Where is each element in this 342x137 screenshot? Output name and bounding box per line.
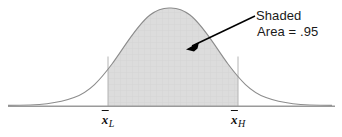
axis-label-upper-bound: xH — [231, 110, 245, 129]
subscript-lower: L — [109, 118, 115, 129]
normal-curve-figure: Shaded Area = .95 xL xH — [0, 0, 342, 137]
x-bar-symbol-lower: x — [102, 110, 109, 128]
shaded-annotation-line-2: Area = .95 — [257, 24, 318, 39]
x-bar-symbol-upper: x — [231, 110, 238, 128]
axis-label-lower-bound: xL — [102, 110, 115, 129]
subscript-upper: H — [238, 118, 245, 129]
shaded-annotation-line-1: Shaded — [256, 8, 301, 23]
